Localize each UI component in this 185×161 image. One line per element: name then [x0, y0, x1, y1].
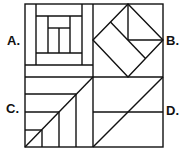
label-b: B. — [166, 34, 179, 47]
block-c — [25, 77, 93, 147]
block-b — [93, 4, 163, 77]
quilt-block-figure: A. B. C. D. — [0, 0, 185, 161]
label-d: D. — [166, 104, 179, 117]
block-d — [93, 77, 163, 147]
label-c: C. — [6, 102, 19, 115]
block-a — [25, 4, 93, 65]
label-a: A. — [7, 34, 20, 47]
quilt-grid — [0, 0, 185, 161]
